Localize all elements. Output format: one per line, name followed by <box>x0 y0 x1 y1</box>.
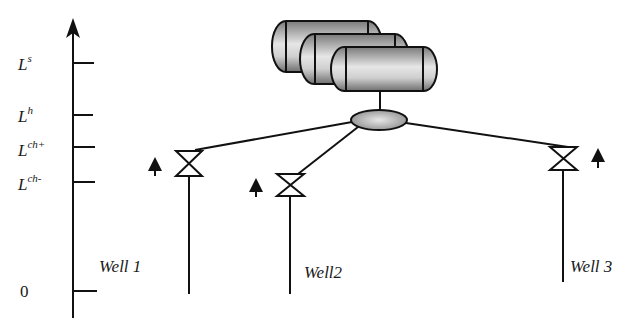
level-axis <box>66 18 97 318</box>
flow-arrow-icon <box>249 178 263 197</box>
valve-icon <box>277 174 304 196</box>
manifold <box>351 110 407 130</box>
level-label-zero: 0 <box>20 283 29 300</box>
well-1 <box>148 151 202 294</box>
level-label-Lch-minus: Lch- <box>18 176 42 193</box>
level-sup: s <box>27 52 31 64</box>
level-base: 0 <box>20 282 29 301</box>
level-sup: ch+ <box>27 138 45 150</box>
separator-tank-3 <box>331 47 437 91</box>
valve-icon <box>550 147 577 170</box>
well-3-label: Well 3 <box>570 258 612 275</box>
level-sup: h <box>27 104 33 116</box>
well-1-label: Well 1 <box>99 258 141 275</box>
well-2 <box>249 174 304 294</box>
level-sup: ch- <box>27 172 41 184</box>
flow-arrow-icon <box>148 157 162 176</box>
flow-arrow-icon <box>591 148 605 168</box>
level-label-Lh: Lh <box>18 108 33 125</box>
valve-icon <box>176 151 202 176</box>
level-label-Ls: Ls <box>18 56 32 73</box>
well-2-label: Well2 <box>304 264 342 281</box>
level-label-Lch-plus: Lch+ <box>18 142 45 159</box>
